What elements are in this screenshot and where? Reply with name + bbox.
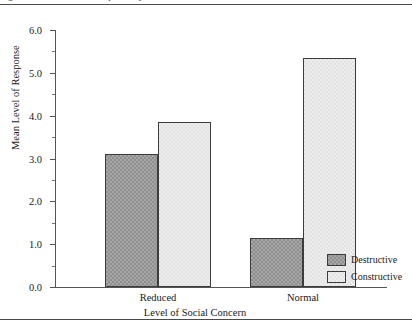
- y-tick-minor: [52, 180, 55, 181]
- y-tick-label: 0.0: [29, 282, 42, 293]
- y-tick-major: 3.0: [50, 159, 55, 160]
- plot-area: 0.01.02.03.04.05.06.0: [55, 30, 387, 288]
- y-tick-minor: [52, 266, 55, 267]
- y-axis-title: Mean Level of Response: [10, 45, 21, 150]
- legend-item-destructive[interactable]: Destructive: [327, 251, 402, 268]
- bar-normal-destructive: [250, 238, 303, 287]
- y-tick-minor: [52, 137, 55, 138]
- x-axis-title: Level of Social Concern: [0, 307, 390, 318]
- y-tick-minor: [52, 51, 55, 52]
- y-tick-minor: [52, 223, 55, 224]
- x-category-label-reduced: Reduced: [140, 292, 177, 303]
- y-tick-label: 2.0: [29, 196, 42, 207]
- x-axis-line: [55, 287, 387, 288]
- top-rule: [0, 4, 412, 5]
- y-tick-major: 1.0: [50, 244, 55, 245]
- chart-legend: Destructive Constructive: [327, 251, 402, 285]
- y-tick-label: 4.0: [29, 110, 42, 121]
- bottom-rule: [0, 319, 412, 320]
- y-tick-label: 6.0: [29, 25, 42, 36]
- legend-swatch-constructive-icon: [327, 271, 346, 283]
- y-tick-label: 5.0: [29, 67, 42, 78]
- bar-reduced-destructive: [105, 154, 158, 287]
- legend-swatch-destructive-icon: [327, 254, 346, 266]
- y-tick-major: 2.0: [50, 201, 55, 202]
- legend-label-constructive: Constructive: [351, 271, 402, 282]
- y-tick-major: 5.0: [50, 73, 55, 74]
- y-tick-label: 3.0: [29, 153, 42, 164]
- y-tick-major: 4.0: [50, 116, 55, 117]
- y-axis-line: [55, 30, 56, 288]
- y-tick-minor: [52, 94, 55, 95]
- y-axis-title-wrap: Mean Level of Response: [12, 30, 26, 288]
- y-tick-major: 6.0: [50, 30, 55, 31]
- legend-item-constructive[interactable]: Constructive: [327, 268, 402, 285]
- y-tick-major: 0.0: [50, 287, 55, 288]
- y-tick-label: 1.0: [29, 239, 42, 250]
- figure-container: Figure 1. Mean level of response by leve…: [0, 0, 412, 325]
- bar-reduced-constructive: [158, 122, 211, 287]
- legend-label-destructive: Destructive: [351, 254, 397, 265]
- figure-caption-sliver: Figure 1. Mean level of response by leve…: [0, 0, 412, 2]
- x-category-label-normal: Normal: [287, 292, 319, 303]
